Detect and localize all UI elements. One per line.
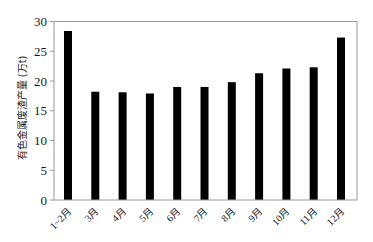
y-axis-label: 有色金属废渣产量 (万t) [16, 55, 28, 160]
bar-7 [228, 82, 236, 200]
bar-10 [310, 67, 318, 200]
y-tick-label: 20 [34, 74, 47, 89]
x-tick-label: 11月 [297, 206, 319, 228]
bar-3 [119, 92, 127, 200]
x-tick-label: 5月 [137, 206, 155, 224]
x-tick-label: 4月 [110, 206, 128, 224]
y-tick-label: 5 [41, 163, 48, 178]
bars [64, 31, 345, 200]
y-tick-label: 25 [34, 44, 47, 59]
bar-6 [201, 87, 209, 200]
y-tick-label: 10 [34, 133, 47, 148]
bar-5 [173, 87, 181, 200]
y-tick-label: 15 [34, 103, 47, 118]
bar-4 [146, 93, 154, 200]
x-axis-labels: 1~2月3月4月5月6月7月8月9月10月11月12月 [48, 206, 347, 232]
x-tick-label: 10月 [270, 206, 292, 228]
bar-2 [91, 92, 99, 200]
bar-8 [255, 73, 263, 200]
y-axis-ticks: 051015202530 [34, 14, 54, 208]
y-tick-label: 0 [41, 193, 48, 208]
bar-9 [282, 69, 290, 200]
bar-chart: 051015202530 1~2月3月4月5月6月7月8月9月10月11月12月… [0, 0, 373, 242]
x-tick-label: 1~2月 [48, 206, 74, 232]
x-tick-label: 6月 [164, 206, 182, 224]
x-tick-label: 3月 [82, 206, 100, 224]
x-tick-label: 12月 [324, 206, 346, 228]
x-tick-label: 9月 [246, 206, 264, 224]
y-tick-label: 30 [34, 14, 47, 29]
x-tick-label: 7月 [192, 206, 210, 224]
bar-11 [337, 38, 345, 200]
bar-1 [64, 31, 72, 200]
x-tick-label: 8月 [219, 206, 237, 224]
